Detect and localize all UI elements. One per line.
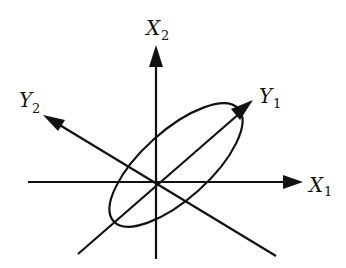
y2-axis — [43, 115, 276, 256]
label-y1-main: Y — [259, 84, 274, 108]
label-y2: Y 2 — [19, 88, 40, 116]
label-x1: X 1 — [307, 173, 332, 199]
label-y1-sub: 1 — [273, 96, 281, 111]
label-x2-sub: 2 — [161, 28, 169, 43]
y1-axis — [78, 100, 253, 254]
x2-axis — [149, 45, 163, 259]
label-x1-main: X — [307, 173, 324, 197]
label-y2-sub: 2 — [32, 101, 40, 116]
y2-arrowhead-icon — [43, 115, 65, 131]
label-y1: Y 1 — [259, 84, 281, 111]
label-x1-sub: 1 — [324, 184, 332, 199]
label-x2-main: X — [144, 16, 161, 40]
axis-rotation-diagram: X 2 Y 1 Y 2 X 1 — [0, 0, 346, 268]
x2-arrowhead-icon — [149, 45, 163, 67]
x1-arrowhead-icon — [283, 175, 303, 189]
label-x2: X 2 — [144, 16, 169, 43]
